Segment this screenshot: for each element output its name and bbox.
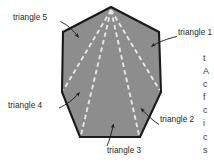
side-text-line: c (203, 78, 214, 91)
side-text-line: A (203, 65, 214, 78)
label-triangle-3: triangle 3 (107, 146, 141, 155)
label-triangle-4: triangle 4 (8, 101, 42, 110)
side-text-line: f (203, 91, 214, 104)
clipped-side-text-column: t A c f c i c s (203, 52, 214, 157)
figure-container: triangle 5 triangle 1 triangle 4 triangl… (0, 0, 214, 165)
side-text-line: c (203, 104, 214, 117)
heptagon-shape (62, 7, 161, 137)
heptagon-triangulation-svg (0, 0, 214, 165)
label-triangle-1: triangle 1 (178, 28, 212, 37)
side-text-line: s (203, 144, 214, 157)
label-triangle-2: triangle 2 (160, 115, 194, 124)
label-triangle-5: triangle 5 (13, 13, 47, 22)
side-text-line: c (203, 131, 214, 144)
side-text-line: t (203, 52, 214, 65)
side-text-line: i (203, 117, 214, 130)
